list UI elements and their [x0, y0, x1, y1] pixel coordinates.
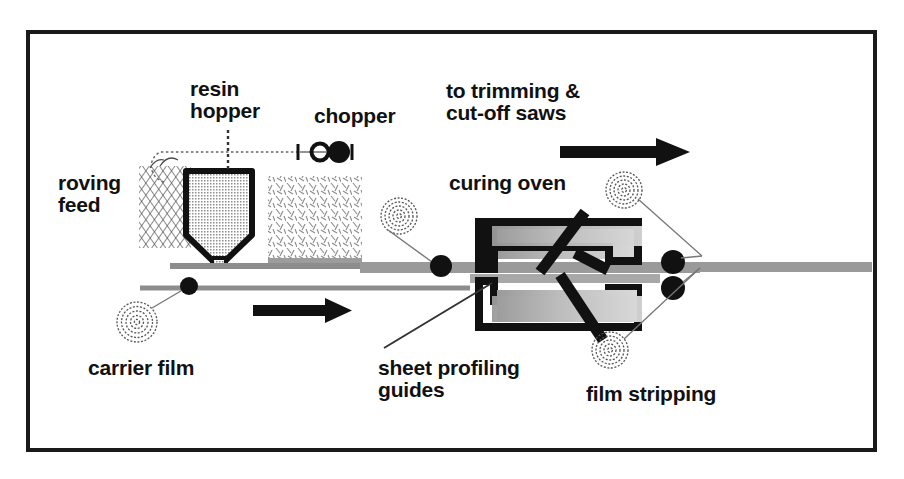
sheet-web: [140, 262, 872, 288]
diagram-artwork: [0, 0, 904, 479]
flow-arrow-bottom: [253, 298, 352, 323]
flow-arrow-top: [560, 138, 690, 166]
resin-hopper-body: [186, 171, 252, 266]
label-resin-hopper: resin hopper: [190, 78, 260, 123]
label-roving-feed: roving feed: [58, 172, 121, 217]
label-carrier-film: carrier film: [88, 357, 194, 379]
chopped-fiber-fall: [268, 176, 362, 267]
label-film-stripping: film stripping: [586, 383, 716, 405]
pinch-roller-bottom: [661, 276, 685, 300]
carrier-film-guide-roller: [180, 277, 198, 295]
diagram-canvas: roving feed resin hopper chopper to trim…: [0, 0, 904, 479]
label-curing-oven: curing oven: [449, 172, 566, 194]
label-trimming-saws: to trimming & cut-off saws: [446, 80, 580, 125]
pinch-roller-top: [661, 250, 685, 274]
upper-film-guide-roller: [430, 255, 452, 277]
label-chopper: chopper: [314, 105, 395, 127]
label-sheet-profiling: sheet profiling guides: [378, 357, 520, 402]
